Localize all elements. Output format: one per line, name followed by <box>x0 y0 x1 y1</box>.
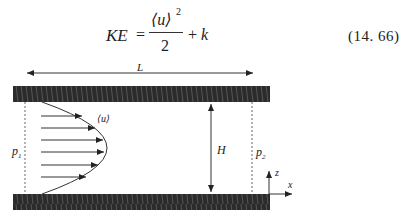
inlet-pressure-label: p1 <box>12 145 22 160</box>
mean-velocity-label: ⟨u⟩ <box>97 114 110 124</box>
z-axis-label: z <box>275 168 279 178</box>
outlet-pressure-label: p2 <box>256 146 266 161</box>
x-axis-label: x <box>288 180 292 190</box>
bottom-wall <box>13 194 270 210</box>
channel-flow-diagram <box>0 0 416 224</box>
length-label: L <box>137 62 143 73</box>
top-wall <box>13 86 270 102</box>
height-label: H <box>217 144 226 156</box>
